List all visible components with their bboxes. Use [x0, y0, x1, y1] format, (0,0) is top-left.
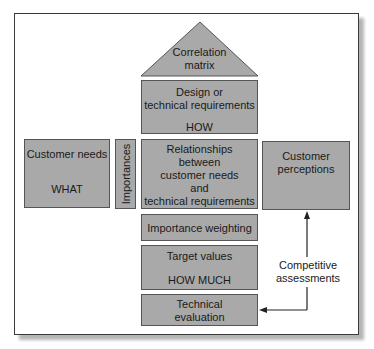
importance-weighting-label: Importance weighting [142, 222, 257, 235]
competitive-line1: Competitive [272, 259, 344, 272]
target-line2: HOW MUCH [142, 274, 257, 287]
relationships-box: Relationships between customer needs and… [141, 139, 258, 209]
importances-box: Importances [115, 139, 136, 209]
design-line1: Design or [142, 86, 257, 99]
competitive-assessments-label: Competitive assessments [272, 259, 344, 285]
customer-needs-box: Customer needs WHAT [24, 139, 110, 208]
correlation-matrix-label: Correlation matrix [141, 46, 258, 72]
arrowhead-left-icon [259, 307, 267, 313]
customer-perceptions-box: Customer perceptions [262, 141, 350, 210]
tech-eval-line1: Technical [142, 298, 257, 311]
roof-line2: matrix [141, 59, 258, 72]
rel-line4: and [142, 182, 257, 195]
design-line3: HOW [142, 121, 257, 134]
rel-line3: customer needs [142, 169, 257, 182]
target-line1: Target values [142, 250, 257, 263]
rel-line2: between [142, 156, 257, 169]
target-values-box: Target values HOW MUCH [141, 245, 258, 290]
customer-needs-line2: WHAT [25, 183, 109, 196]
customer-needs-line1: Customer needs [25, 148, 109, 161]
design-line2: technical requirements [142, 99, 257, 112]
importance-weighting-box: Importance weighting [141, 214, 258, 241]
arrowhead-up-icon [304, 211, 310, 219]
competitive-line2: assessments [272, 272, 344, 285]
importances-label: Importances [119, 144, 132, 205]
roof-line1: Correlation [141, 46, 258, 59]
rel-line5: technical requirements [142, 195, 257, 208]
design-requirements-box: Design or technical requirements HOW [141, 80, 258, 134]
perceptions-line1: Customer [263, 150, 349, 163]
technical-evaluation-box: Technical evaluation [141, 294, 258, 326]
rel-line1: Relationships [142, 143, 257, 156]
tech-eval-line2: evaluation [142, 311, 257, 324]
perceptions-line2: perceptions [263, 163, 349, 176]
